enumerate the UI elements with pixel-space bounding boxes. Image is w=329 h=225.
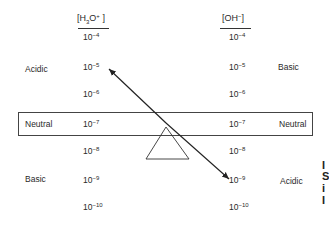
seesaw-arrow-icon <box>109 69 166 123</box>
fulcrum-triangle-icon <box>146 127 189 159</box>
seesaw-arrow-icon <box>166 123 229 179</box>
